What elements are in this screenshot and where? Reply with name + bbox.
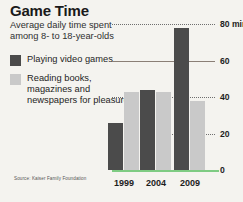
- y-axis-label-60: 60: [220, 56, 230, 66]
- page-title: Game Time: [10, 3, 89, 18]
- gridline-60: [112, 61, 215, 62]
- x-axis-label-2004: 2004: [146, 178, 166, 188]
- bar-2009-reading: [190, 101, 205, 170]
- gridline-80: [112, 24, 215, 25]
- axis-baseline: [112, 170, 219, 172]
- legend-swatch-video-games: [10, 55, 21, 66]
- bar-2004-reading: [156, 92, 171, 170]
- bar-2004-video-games: [140, 90, 155, 170]
- y-axis-label-0: 0: [220, 165, 225, 175]
- y-axis-label-40: 40: [220, 92, 230, 102]
- bar-1999-reading: [124, 92, 139, 170]
- y-axis-label-20: 20: [220, 129, 230, 139]
- x-axis-label-1999: 1999: [114, 178, 134, 188]
- plot-area: 020406080 minutes199920042009: [112, 0, 215, 202]
- infographic-panel: Game Time Average daily time spent among…: [0, 0, 243, 202]
- bar-chart: 020406080 minutes199920042009: [112, 0, 243, 202]
- legend-swatch-reading: [10, 74, 21, 85]
- source-note: Source: Kaiser Family Foundation: [14, 176, 86, 181]
- legend-label-video-games: Playing video games: [27, 54, 113, 65]
- x-axis-label-2009: 2009: [180, 178, 200, 188]
- bar-1999-video-games: [108, 123, 123, 170]
- y-axis-label-80: 80 minutes: [220, 19, 243, 29]
- bar-2009-video-games: [174, 28, 189, 170]
